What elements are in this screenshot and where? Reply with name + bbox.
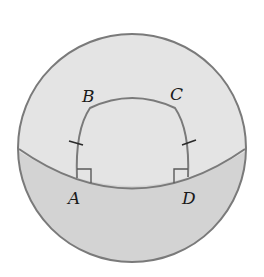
sphere-diagram: B C A D [0,0,264,277]
label-d: D [181,188,196,208]
label-a: A [66,188,80,208]
label-c: C [170,84,183,104]
label-b: B [81,86,95,106]
